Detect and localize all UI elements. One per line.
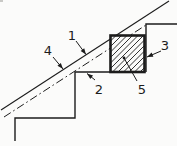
part-label-4: 4 [44,43,52,58]
scan-speck [0,0,3,2]
part-label-1: 1 [68,28,76,43]
patent-stair-figure: 12345 [0,0,177,146]
hatch-line [74,36,111,73]
part-label-3-arrowhead [147,53,153,57]
part-label-5-dot [123,57,126,60]
part-label-3: 3 [161,38,169,53]
stair-drawing-svg: 12345 [0,0,177,146]
part-label-2: 2 [95,82,103,97]
part-label-5: 5 [138,82,146,97]
part-label-1-arrowhead [81,48,86,54]
